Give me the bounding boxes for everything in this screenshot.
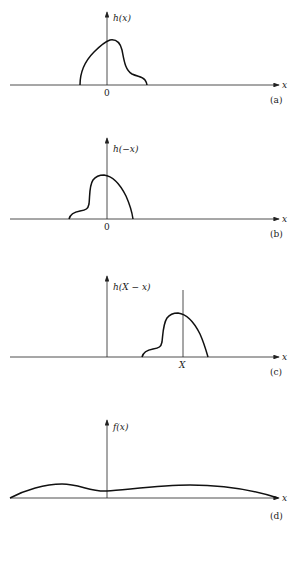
x-axis-label-d: x bbox=[282, 493, 287, 503]
y-axis-label-a: h(x) bbox=[113, 13, 131, 23]
x-marker-label-c: X bbox=[178, 360, 186, 370]
caption-c: (c) bbox=[270, 367, 282, 377]
panel-d: f(x) x (d) bbox=[10, 420, 287, 521]
y-axis-label-b: h(−x) bbox=[113, 144, 139, 154]
caption-d: (d) bbox=[270, 511, 283, 521]
convolution-diagram: h(x) 0 x (a) h(−x) 0 x (b) h(X − x) X x … bbox=[0, 0, 298, 571]
y-axis-label-c: h(X − x) bbox=[113, 282, 151, 292]
panel-a: h(x) 0 x (a) bbox=[10, 12, 287, 105]
h-minus-x-curve bbox=[69, 175, 133, 219]
h-x-curve bbox=[80, 40, 147, 85]
origin-label-a: 0 bbox=[104, 88, 110, 98]
x-axis-label-c: x bbox=[282, 352, 287, 362]
x-axis-label-b: x bbox=[282, 214, 287, 224]
panel-b: h(−x) 0 x (b) bbox=[10, 138, 287, 239]
h-X-minus-x-curve bbox=[142, 313, 208, 357]
origin-label-b: 0 bbox=[104, 222, 110, 232]
y-axis-label-d: f(x) bbox=[112, 422, 129, 432]
x-axis-label-a: x bbox=[282, 80, 287, 90]
f-x-curve bbox=[10, 484, 278, 498]
caption-a: (a) bbox=[270, 95, 282, 105]
panel-c: h(X − x) X x (c) bbox=[10, 276, 287, 377]
caption-b: (b) bbox=[270, 229, 283, 239]
